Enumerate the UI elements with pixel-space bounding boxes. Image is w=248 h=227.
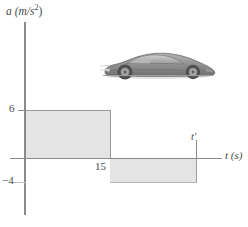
y-tick-label-6: 6 bbox=[9, 102, 15, 114]
vertical-axis bbox=[24, 22, 26, 215]
positive-acceleration-region bbox=[24, 110, 111, 159]
acceleration-time-figure: a (m/s2) 6 −4 15 t′ t (s) bbox=[0, 0, 248, 227]
y-axis-label-text: a (m/s bbox=[6, 5, 34, 17]
ground-line bbox=[103, 75, 213, 76]
x-tick-label-t-prime: t′ bbox=[191, 131, 196, 142]
tick-mark-6 bbox=[18, 110, 26, 111]
x-tick-label-15: 15 bbox=[95, 160, 106, 172]
sports-car-icon bbox=[100, 46, 218, 82]
negative-acceleration-region bbox=[110, 158, 197, 183]
car-illustration bbox=[100, 46, 218, 82]
tick-mark-t-prime bbox=[196, 140, 197, 158]
y-axis-label-paren: ) bbox=[38, 5, 42, 17]
x-axis-label: t (s) bbox=[225, 149, 242, 161]
y-axis-label: a (m/s2) bbox=[6, 3, 42, 17]
horizontal-axis bbox=[10, 158, 222, 159]
y-tick-label-negative-4: −4 bbox=[2, 174, 14, 186]
